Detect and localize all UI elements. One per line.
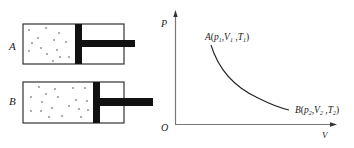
cylinder-b: B [9,82,153,123]
y-axis-arrow-icon [173,10,177,17]
point-b-label: B(p2,V2 ,T2) [295,105,339,116]
piston-rod-b [100,98,153,106]
y-axis-label: P [160,18,167,29]
cylinder-a: A [8,24,135,64]
cylinder-b-label: B [9,95,16,107]
x-axis-label: V [322,130,329,140]
diagram-canvas: A B P O V [0,0,354,148]
gas-particles-b [30,86,89,118]
point-a-label: A(p1,V1 ,T1) [204,32,249,43]
isotherm-curve [211,45,289,110]
piston-a [75,24,82,64]
origin-label: O [161,122,168,133]
cylinder-a-label: A [8,40,16,52]
pv-graph: P O V A(p1,V1 ,T1) B(p2,V2 ,T2) [160,10,339,140]
piston-rod-a [82,40,135,47]
piston-b [93,82,100,123]
x-axis-arrow-icon [330,122,337,126]
gas-particles-a [28,27,70,62]
